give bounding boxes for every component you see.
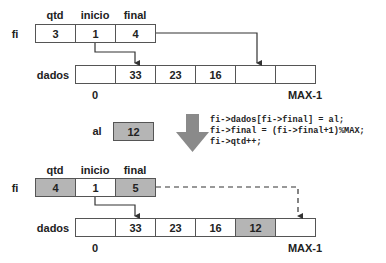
down-arrow-icon [176, 114, 209, 152]
final-pointer-arrow [156, 33, 257, 63]
final-pointer-arrow-dashed [156, 187, 298, 216]
connectors [0, 0, 386, 263]
inicio-pointer-arrow [95, 197, 135, 216]
inicio-pointer-arrow [95, 43, 135, 63]
